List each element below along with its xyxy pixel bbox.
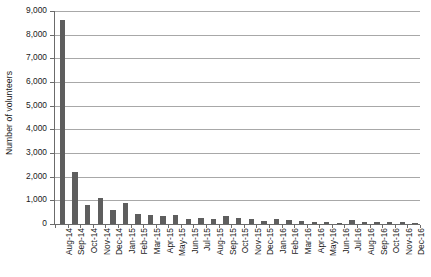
bar — [400, 222, 405, 224]
y-tick-mark — [50, 82, 55, 83]
y-tick-mark — [50, 106, 55, 107]
bar — [160, 216, 165, 224]
y-tick-label: 7,000 — [26, 53, 47, 62]
bar — [173, 215, 178, 224]
y-tick-mark — [50, 200, 55, 201]
x-tick-label: Apr-15 — [166, 228, 175, 253]
bar — [198, 218, 203, 224]
y-tick-label: 0 — [42, 219, 47, 228]
bar-series — [55, 11, 420, 224]
y-tick-label: 1,000 — [26, 195, 47, 204]
bar — [148, 215, 153, 224]
bar — [312, 222, 317, 224]
x-tick-label: Jun-16 — [342, 228, 351, 254]
x-tick-label: May-16 — [329, 228, 338, 256]
bar — [274, 219, 279, 224]
bar — [85, 205, 90, 224]
bar — [123, 203, 128, 224]
bar — [412, 223, 417, 224]
y-tick-label: 8,000 — [26, 30, 47, 39]
volunteers-bar-chart: Number of volunteers 01,0002,0003,0004,0… — [0, 0, 431, 277]
y-tick-label: 6,000 — [26, 77, 47, 86]
x-tick-label: Jun-15 — [191, 228, 200, 254]
x-tick-label: May-15 — [178, 228, 187, 256]
x-tick-label: Sep-15 — [229, 228, 238, 255]
y-tick-mark — [50, 35, 55, 36]
y-tick-mark — [50, 224, 55, 225]
x-tick-label: Jan-16 — [279, 228, 288, 254]
x-tick-label: Dec-16 — [417, 228, 426, 255]
x-tick-label: Aug-16 — [367, 228, 376, 255]
y-tick-mark — [50, 177, 55, 178]
y-tick-mark — [50, 58, 55, 59]
x-tick-label: Mar-16 — [304, 228, 313, 255]
x-tick-label: Jul-16 — [354, 228, 363, 251]
x-tick-label: Aug-14 — [65, 228, 74, 255]
y-tick-label: 3,000 — [26, 148, 47, 157]
y-tick-mark — [50, 129, 55, 130]
x-tick-label: Apr-16 — [317, 228, 326, 253]
x-tick-label: Aug-15 — [216, 228, 225, 255]
x-tick-label: Dec-15 — [266, 228, 275, 255]
bar — [299, 221, 304, 224]
x-tick-label: Oct-15 — [241, 228, 250, 253]
bar — [110, 210, 115, 224]
bar — [211, 219, 216, 224]
x-tick-label: Nov-14 — [103, 228, 112, 255]
bar — [362, 222, 367, 224]
bar — [324, 222, 329, 224]
x-tick-label: Oct-16 — [392, 228, 401, 253]
x-tick-label: Dec-14 — [115, 228, 124, 255]
bar — [236, 218, 241, 224]
x-tick-label: Mar-15 — [153, 228, 162, 255]
bar — [186, 219, 191, 224]
y-tick-mark — [50, 153, 55, 154]
bar — [387, 222, 392, 224]
bar — [98, 198, 103, 224]
y-tick-label: 9,000 — [26, 6, 47, 15]
bar — [349, 220, 354, 224]
bar — [72, 172, 77, 224]
plot-area — [55, 11, 420, 224]
x-axis-tick-labels: Aug-14Sep-14Oct-14Nov-14Dec-14Jan-15Feb-… — [55, 228, 427, 277]
y-axis-tick-labels: 01,0002,0003,0004,0005,0006,0007,0008,00… — [16, 0, 50, 230]
y-tick-label: 2,000 — [26, 172, 47, 181]
x-tick-label: Nov-15 — [254, 228, 263, 255]
y-tick-label: 4,000 — [26, 124, 47, 133]
bar — [135, 214, 140, 224]
bar — [374, 222, 379, 224]
bar — [249, 219, 254, 224]
x-tick-label: Feb-15 — [140, 228, 149, 255]
x-tick-label: Feb-16 — [291, 228, 300, 255]
x-tick-label: Sep-14 — [77, 228, 86, 255]
x-tick-label: Jan-15 — [128, 228, 137, 254]
bar — [60, 20, 65, 224]
y-tick-mark — [50, 11, 55, 12]
bar — [286, 220, 291, 224]
x-tick-label: Jul-15 — [203, 228, 212, 251]
bar — [261, 221, 266, 224]
x-tick-label: Oct-14 — [90, 228, 99, 253]
x-tick-label: Nov-16 — [405, 228, 414, 255]
y-tick-label: 5,000 — [26, 101, 47, 110]
bar — [223, 216, 228, 224]
bar — [337, 223, 342, 224]
x-tick-label: Sep-16 — [380, 228, 389, 255]
y-axis-title-label: Number of volunteers — [4, 71, 14, 155]
